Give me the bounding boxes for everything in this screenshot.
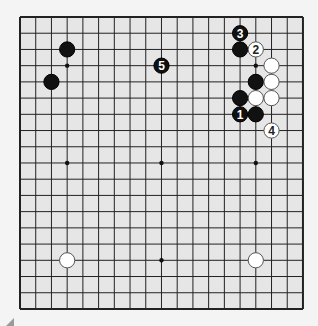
white-stone-move-2[interactable]: 2 <box>248 42 263 57</box>
move-number: 1 <box>237 108 244 122</box>
go-board: 53214 <box>0 0 318 326</box>
black-stone[interactable] <box>248 74 263 89</box>
star-point <box>65 161 69 165</box>
white-stone[interactable] <box>264 58 279 73</box>
black-stone[interactable] <box>44 74 59 89</box>
white-stone[interactable] <box>248 91 263 106</box>
move-number: 5 <box>158 59 165 73</box>
star-point <box>159 161 163 165</box>
black-stone-move-5[interactable]: 5 <box>154 58 169 73</box>
white-stone-move-4[interactable]: 4 <box>264 123 279 138</box>
black-stone[interactable] <box>60 42 75 57</box>
white-stone[interactable] <box>248 253 263 268</box>
star-point <box>254 161 258 165</box>
black-stone-move-1[interactable]: 1 <box>232 107 247 122</box>
move-number: 4 <box>268 124 275 138</box>
white-stone[interactable] <box>264 91 279 106</box>
white-stone[interactable] <box>60 253 75 268</box>
star-point <box>65 63 69 67</box>
move-number: 3 <box>237 27 244 41</box>
star-point <box>159 258 163 262</box>
black-stone[interactable] <box>232 91 247 106</box>
black-stone[interactable] <box>232 42 247 57</box>
page-corner-mark <box>6 318 14 326</box>
star-point <box>254 63 258 67</box>
move-number: 2 <box>252 43 259 57</box>
black-stone[interactable] <box>248 107 263 122</box>
white-stone[interactable] <box>264 74 279 89</box>
black-stone-move-3[interactable]: 3 <box>232 26 247 41</box>
